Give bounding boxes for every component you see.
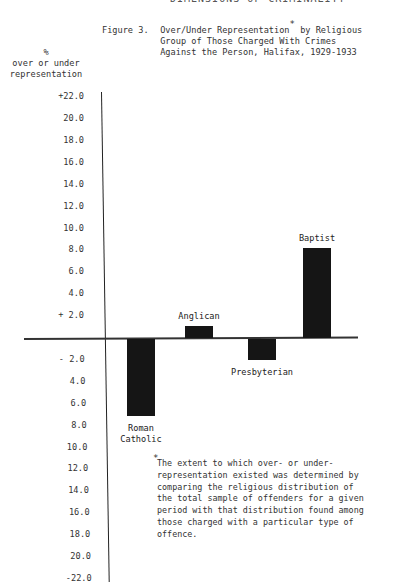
y-tick-label: - 2.0: [47, 354, 85, 364]
y-tick-label: 8.0: [49, 420, 87, 430]
y-tick-label: 10.0: [46, 223, 84, 233]
y-tick-label: 16.0: [52, 507, 90, 517]
y-tick-label: 4.0: [47, 376, 85, 386]
figure-title-line-2: Group of Those Charged With Crimes: [160, 36, 336, 46]
y-axis-label-line-1: over or under: [0, 58, 92, 69]
y-tick-label: 20.0: [53, 551, 91, 561]
y-axis-label-line-2: representation: [0, 69, 92, 80]
y-tick-label: 10.0: [50, 442, 88, 452]
footnote: *The extent to which over- or under- rep…: [157, 458, 392, 541]
y-tick-label: 8.0: [46, 244, 84, 254]
title-asterisk: *: [290, 19, 295, 29]
y-tick-label: 6.0: [46, 266, 84, 276]
y-tick-label: 14.0: [51, 485, 89, 495]
figure-title-line-1-suffix: by Religious: [295, 25, 362, 35]
y-tick-label: 12.0: [46, 201, 84, 211]
figure-label: Figure 3.: [102, 25, 155, 36]
running-header: DIMENSIONS OF CRIMINALITY: [170, 0, 346, 4]
bar-presbyterian: [248, 339, 276, 360]
bar-roman-catholic: [127, 339, 155, 416]
figure-title-line-1: Over/Under Representation: [160, 25, 289, 35]
figure-title: Figure 3. Over/Under Representation* by …: [102, 25, 362, 58]
y-tick-label: 20.0: [46, 113, 84, 123]
footnote-asterisk: *: [153, 453, 158, 465]
bar-label: Anglican: [149, 311, 249, 322]
bar-label: RomanCatholic: [91, 423, 191, 445]
percent-symbol: %: [0, 47, 92, 58]
y-tick-label: 14.0: [46, 179, 84, 189]
y-tick-label: -22.0: [54, 573, 92, 582]
footnote-text: The extent to which over- or under- repr…: [157, 458, 364, 539]
bar-label: Baptist: [267, 233, 367, 244]
y-tick-label: 16.0: [46, 157, 84, 167]
bar-anglican: [185, 326, 213, 338]
y-tick-label: 18.0: [46, 135, 84, 145]
y-axis-label: % over or under representation: [0, 47, 92, 80]
y-tick-label: 12.0: [50, 463, 88, 473]
y-tick-label: + 2.0: [46, 310, 84, 320]
bar-label: Presbyterian: [212, 367, 312, 378]
y-tick-label: 18.0: [52, 529, 90, 539]
y-tick-label: +22.0: [46, 91, 84, 101]
y-tick-label: 6.0: [48, 398, 86, 408]
y-tick-label: 4.0: [46, 288, 84, 298]
figure-title-line-3: Against the Person, Halifax, 1929-1933: [160, 47, 357, 57]
bar-baptist: [303, 248, 331, 338]
